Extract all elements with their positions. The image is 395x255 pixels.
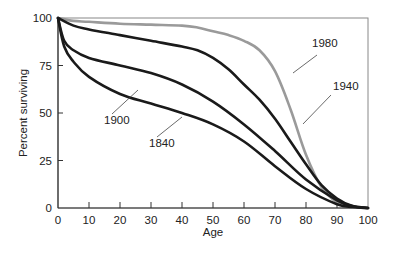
y-tick-label: 50 xyxy=(39,107,52,119)
x-axis-label: Age xyxy=(203,226,223,238)
series-label-1980: 1980 xyxy=(312,37,338,49)
x-tick-label: 0 xyxy=(55,214,61,226)
x-tick-label: 70 xyxy=(269,214,282,226)
x-tick-label: 100 xyxy=(358,214,377,226)
x-tick-label: 40 xyxy=(176,214,189,226)
x-tick-label: 50 xyxy=(207,214,220,226)
survivorship-chart: 0102030405060708090100 0255075100 198019… xyxy=(0,0,395,255)
x-tick-label: 30 xyxy=(145,214,158,226)
x-tick-label: 90 xyxy=(331,214,344,226)
x-axis-ticks: 0102030405060708090100 xyxy=(55,202,378,226)
series-label-1940: 1940 xyxy=(333,80,359,92)
x-tick-label: 80 xyxy=(300,214,313,226)
y-tick-label: 0 xyxy=(46,202,52,214)
leader-line-1940 xyxy=(303,95,331,124)
y-tick-label: 100 xyxy=(33,12,52,24)
y-tick-label: 75 xyxy=(39,60,52,72)
x-tick-label: 60 xyxy=(238,214,251,226)
y-tick-label: 25 xyxy=(39,155,52,167)
y-axis-label: Percent surviving xyxy=(17,69,29,157)
x-tick-label: 10 xyxy=(83,214,96,226)
leader-line-1980 xyxy=(293,55,317,73)
x-tick-label: 20 xyxy=(114,214,127,226)
series-label-1840: 1840 xyxy=(149,137,175,149)
series-label-1900: 1900 xyxy=(104,114,130,126)
leader-line-1840 xyxy=(157,117,182,137)
